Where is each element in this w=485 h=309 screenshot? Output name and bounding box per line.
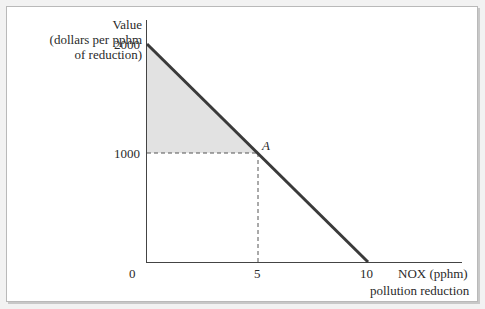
y-axis-title-line1: Value [50, 17, 142, 32]
x-tick-5: 5 [254, 266, 261, 281]
x-axis-title-line2: pollution reduction [370, 283, 469, 298]
origin-tick: 0 [129, 266, 136, 281]
x-axis-title-line1: NOX (pphm) [398, 266, 468, 281]
x-tick-10: 10 [360, 266, 373, 281]
point-a-label: A [262, 138, 270, 153]
y-tick-1000: 1000 [114, 146, 140, 161]
y-tick-2000: 2000 [114, 37, 140, 52]
